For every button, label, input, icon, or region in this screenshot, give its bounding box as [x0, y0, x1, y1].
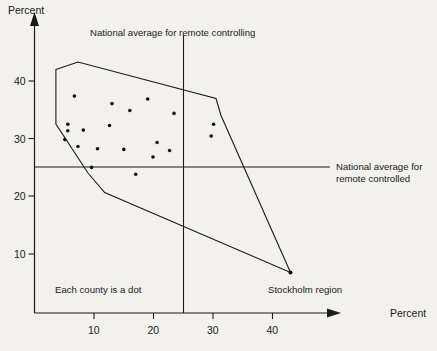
x-axis-title: Percent: [390, 307, 426, 319]
data-point: [128, 109, 132, 113]
data-point: [151, 155, 155, 159]
data-point: [73, 94, 77, 98]
x-tick-label-30: 30: [207, 324, 219, 336]
x-tick-label-20: 20: [148, 324, 160, 336]
stockholm-data-point: [289, 271, 293, 275]
chart-canvas: Percent Percent 40 30 20 10 10 20 30 40 …: [0, 0, 437, 351]
data-point: [76, 145, 80, 149]
x-tick-label-40: 40: [267, 324, 279, 336]
y-axis-title: Percent: [8, 4, 44, 16]
data-point: [168, 149, 172, 153]
scatter-plot-figure: Percent Percent 40 30 20 10 10 20 30 40 …: [0, 0, 437, 351]
annotation-remote-controlling: National average for remote controlling: [90, 27, 255, 38]
data-point: [155, 141, 159, 145]
data-point: [108, 124, 112, 128]
annotation-stockholm-region: Stockholm region: [268, 284, 342, 295]
data-point: [122, 148, 126, 152]
annotation-remote-controlled-line2: remote controlled: [336, 173, 410, 184]
y-tick-label-10: 10: [14, 248, 26, 260]
data-point: [66, 123, 70, 127]
data-point: [96, 147, 100, 151]
data-point: [90, 166, 94, 170]
x-axis-arrow-icon: [327, 309, 341, 318]
data-point: [172, 112, 176, 116]
data-point: [63, 138, 67, 142]
y-tick-label-40: 40: [14, 75, 26, 87]
data-point: [209, 134, 213, 138]
data-point: [212, 123, 216, 127]
y-tick-label-20: 20: [14, 190, 26, 202]
x-tick-label-10: 10: [88, 324, 100, 336]
annotation-remote-controlled-line1: National average for: [336, 161, 423, 172]
y-tick-label-30: 30: [14, 133, 26, 145]
data-point: [82, 128, 86, 132]
data-point: [110, 102, 114, 106]
data-point: [134, 173, 138, 177]
annotation-each-county-is-a-dot: Each county is a dot: [55, 284, 142, 295]
data-point: [66, 129, 70, 133]
data-point: [146, 97, 150, 101]
